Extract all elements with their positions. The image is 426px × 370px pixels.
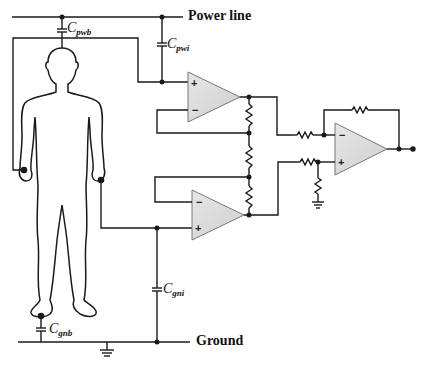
opamp-output-plus: + bbox=[338, 156, 344, 168]
electrode-left-hand bbox=[21, 167, 26, 172]
ground-symbol-output bbox=[312, 202, 324, 208]
opamp-top-output-wire bbox=[240, 97, 292, 135]
ground-symbol-main bbox=[100, 342, 114, 356]
capacitor-cpwb bbox=[57, 17, 67, 48]
ground-label: Ground bbox=[196, 333, 243, 349]
opamp-output-minus: − bbox=[339, 129, 345, 141]
resistor-minus-input bbox=[292, 132, 335, 138]
opamp-top-minus: − bbox=[192, 104, 198, 116]
output-terminal bbox=[411, 147, 415, 151]
opamp-top-plus: + bbox=[191, 77, 197, 89]
right-electrode-wire bbox=[101, 180, 192, 228]
electrode-foot bbox=[38, 313, 43, 318]
opamp-bottom-minus: − bbox=[196, 196, 202, 208]
cgnb-label: Cgnb bbox=[49, 321, 72, 338]
capacitor-cpwi bbox=[157, 17, 167, 82]
human-body-outline bbox=[19, 48, 105, 317]
opamp-bottom-plus: + bbox=[195, 222, 201, 234]
cpwi-label: Cpwi bbox=[167, 36, 189, 53]
resistor-ladder bbox=[246, 97, 252, 215]
circuit-diagram: + − − + − + bbox=[0, 0, 426, 370]
cpwb-label: Cpwb bbox=[67, 20, 91, 37]
resistor-plus-to-ground bbox=[315, 162, 321, 202]
power-line-label: Power line bbox=[188, 8, 251, 24]
cgni-label: Cgni bbox=[163, 281, 184, 298]
capacitor-cgni bbox=[152, 228, 162, 342]
capacitor-cgnb bbox=[36, 316, 46, 342]
electrode-right-hand bbox=[98, 177, 103, 182]
resistor-plus-input bbox=[296, 159, 335, 165]
